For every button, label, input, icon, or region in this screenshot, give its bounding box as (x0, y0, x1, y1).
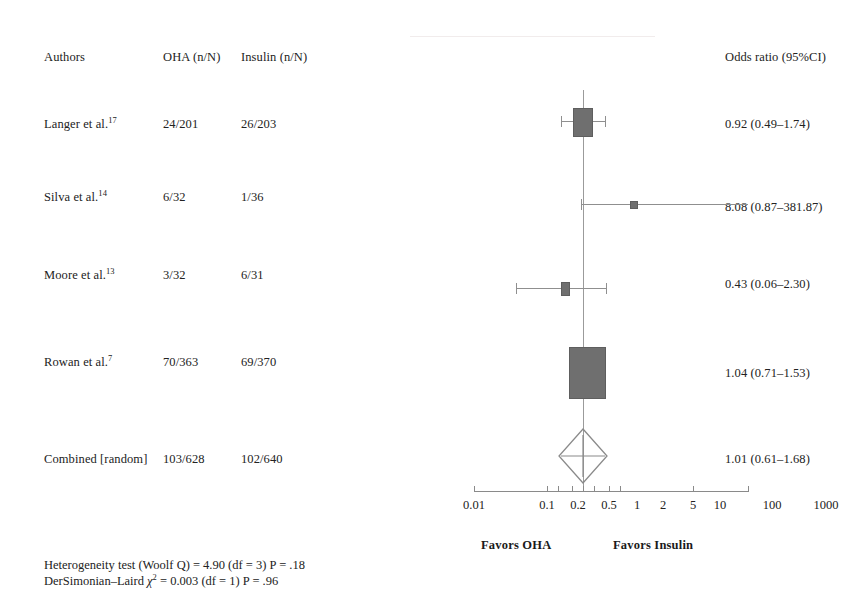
footnote-heterogeneity: Heterogeneity test (Woolf Q) = 4.90 (df … (44, 558, 305, 573)
table-cell-odds-ratio: 0.92 (0.49–1.74) (725, 117, 810, 131)
axis-tick-label: 5 (690, 498, 696, 513)
table-row-author: Langer et al.17 (44, 117, 117, 131)
column-header-odds-ratio: Odds ratio (95%CI) (725, 50, 826, 64)
ci-cap-right-langer (605, 116, 606, 127)
axis-tick (572, 486, 573, 492)
table-row-author: Silva et al.14 (44, 190, 107, 204)
table-cell-insulin: 69/370 (241, 355, 276, 369)
axis-label-favors-insulin: Favors Insulin (613, 538, 693, 553)
axis-tick (748, 486, 749, 492)
table-cell-oha: 24/201 (163, 117, 198, 131)
table-cell-insulin: 6/31 (241, 268, 264, 282)
author-name: Silva et al. (44, 190, 98, 204)
x-axis-line (474, 491, 748, 492)
axis-tick-label: 0.1 (539, 498, 555, 513)
author-name: Combined [random] (44, 452, 147, 466)
effect-marker-moore (561, 282, 570, 296)
axis-tick (620, 486, 621, 492)
table-cell-oha: 103/628 (163, 452, 205, 466)
axis-tick-label: 0.2 (570, 498, 586, 513)
scan-artifact-line (410, 36, 655, 37)
axis-tick (547, 486, 548, 492)
ci-cap-left-silva (581, 199, 582, 210)
axis-tick-label: 0.01 (463, 498, 485, 513)
axis-tick-label: 2 (660, 498, 666, 513)
table-cell-odds-ratio: 1.04 (0.71–1.53) (725, 366, 810, 380)
author-name: Rowan et al. (44, 355, 108, 369)
table-row-author: Combined [random] (44, 452, 147, 466)
table-cell-insulin: 102/640 (241, 452, 283, 466)
axis-label-favors-oha: Favors OHA (481, 538, 551, 553)
effect-marker-rowan (569, 347, 606, 399)
table-cell-oha: 3/32 (163, 268, 186, 282)
axis-tick (693, 486, 694, 492)
axis-tick (594, 486, 595, 492)
footnote-dersimonian-laird: DerSimonian–Laird χ2 = 0.003 (df = 1) P … (44, 574, 278, 589)
author-reference: 7 (108, 353, 112, 363)
axis-tick-label: 1 (634, 498, 640, 513)
author-reference: 13 (106, 266, 115, 276)
footnote-model-suffix: = 0.003 (df = 1) P = .96 (157, 574, 278, 588)
ci-cap-left-langer (561, 116, 562, 127)
axis-tick-label: 100 (763, 498, 782, 513)
ci-line-langer (561, 121, 605, 122)
footnote-model-prefix: DerSimonian–Laird (44, 574, 147, 588)
column-header-authors: Authors (44, 50, 85, 64)
pooled-effect-diamond (553, 427, 613, 487)
author-name: Moore et al. (44, 268, 106, 282)
table-cell-odds-ratio: 0.43 (0.06–2.30) (725, 277, 810, 291)
table-cell-oha: 6/32 (163, 190, 186, 204)
table-cell-odds-ratio: 8.08 (0.87–381.87) (725, 200, 823, 214)
ci-line-rowan (577, 372, 597, 373)
axis-tick (558, 486, 559, 492)
table-row-author: Rowan et al.7 (44, 355, 112, 369)
effect-marker-langer (573, 108, 593, 137)
figure-canvas: Authors OHA (n/N) Insulin (n/N) Odds rat… (0, 0, 866, 595)
axis-tick-label: 10 (714, 498, 727, 513)
author-reference: 17 (108, 115, 117, 125)
reference-line-at-1 (583, 90, 584, 492)
table-cell-odds-ratio: 1.01 (0.61–1.68) (725, 452, 810, 466)
axis-tick-label: 1000 (814, 498, 839, 513)
table-cell-insulin: 1/36 (241, 190, 264, 204)
author-reference: 14 (98, 188, 107, 198)
column-header-oha: OHA (n/N) (163, 50, 221, 64)
column-header-insulin: Insulin (n/N) (241, 50, 307, 64)
ci-cap-right-moore (606, 283, 607, 294)
axis-tick (583, 486, 584, 492)
forest-plot-area: 0.01 0.1 0.2 0.5 1 2 5 10 100 1000 (0, 0, 866, 595)
ci-line-moore (516, 288, 606, 289)
effect-marker-silva (630, 201, 638, 209)
axis-tick-label: 0.5 (601, 498, 617, 513)
ci-cap-left-moore (516, 283, 517, 294)
table-cell-insulin: 26/203 (241, 117, 276, 131)
axis-tick (474, 486, 475, 492)
axis-tick (609, 486, 610, 492)
table-cell-oha: 70/363 (163, 355, 198, 369)
table-row-author: Moore et al.13 (44, 268, 115, 282)
author-name: Langer et al. (44, 117, 108, 131)
ci-line-silva (581, 204, 748, 205)
